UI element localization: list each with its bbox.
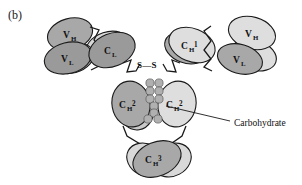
antibody-diagram-svg: .ell { stroke: #1a1a1a; stroke-width: 1.…: [0, 0, 302, 185]
domain-left-vh-label: V: [63, 30, 70, 40]
domain-left-vl-sub: L: [69, 59, 74, 66]
right-hinge-strand: [163, 60, 180, 72]
carbohydrate-bead: [144, 115, 152, 123]
domain-left-vh-sub: H: [71, 35, 77, 42]
disulfide-bond-label-group: S—S: [137, 60, 157, 70]
carbohydrate-bead: [155, 79, 163, 87]
domain-left-ch2-label: C: [119, 100, 126, 110]
carbohydrate-bead: [146, 87, 154, 95]
domain-right-vh-label: V: [245, 29, 252, 39]
domain-left-ch2-sup: 2: [132, 100, 136, 108]
antibody-structure-figure: (b) .ell { stroke: #1a1a1a; stroke-width…: [0, 0, 302, 185]
domain-right-ch1-label: C: [181, 41, 188, 51]
carbohydrate-bead: [155, 95, 163, 103]
domain-left-cl-sub: L: [112, 51, 117, 58]
domain-left-cl-label: C: [104, 46, 111, 56]
domain-left-vl-label: V: [61, 54, 68, 64]
domain-ch3-sup: 3: [158, 155, 162, 163]
domain-ch3-label: C: [145, 155, 152, 165]
carbohydrate-label: Carbohydrate: [234, 118, 286, 128]
domain-right-ch2-label: C: [166, 100, 173, 110]
domain-right-vl-sub: L: [241, 60, 246, 67]
carbohydrate-bead-cluster: [144, 79, 163, 123]
domain-right-vl-label: V: [233, 55, 240, 65]
domain-right-vh-sub: H: [253, 34, 259, 41]
carbohydrate-bead: [146, 79, 154, 87]
carbohydrate-bead: [155, 87, 163, 95]
disulfide-bond-label: S—S: [137, 60, 157, 70]
domain-right-ch2-sup: 2: [179, 100, 183, 108]
carbohydrate-bead: [154, 115, 162, 123]
panel-label: (b): [8, 8, 22, 23]
domain-right-ch1-sup: 1: [194, 41, 198, 49]
